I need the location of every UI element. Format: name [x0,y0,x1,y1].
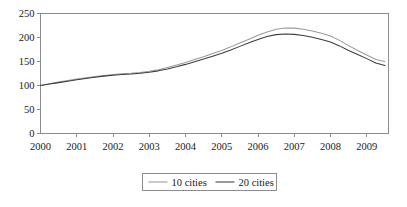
plot-frame [41,14,389,134]
y-tick-label: 150 [19,56,35,67]
chart-container: 050100150200250 200020012002200320042005… [0,0,407,207]
y-axis-labels: 050100150200250 [19,8,35,139]
x-tick-label: 2007 [284,141,305,152]
series-line-20-cities [41,34,385,86]
y-tick-label: 100 [19,80,35,91]
legend-label-10-cities: 10 cities [172,177,207,188]
x-axis-ticks [77,134,367,138]
x-tick-label: 2000 [30,141,51,152]
x-axis-labels: 2000200120022003200420052006200720082009 [30,141,377,152]
x-tick-label: 2001 [66,141,87,152]
x-tick-label: 2008 [320,141,341,152]
y-axis-ticks [37,14,41,134]
x-tick-label: 2006 [248,141,269,152]
line-chart: 050100150200250 200020012002200320042005… [0,0,407,207]
y-tick-label: 200 [19,32,35,43]
data-series-group [41,28,385,86]
y-tick-label: 50 [24,104,35,115]
chart-legend: 10 cities20 cities [143,174,277,191]
x-tick-label: 2009 [356,141,377,152]
x-tick-label: 2004 [175,141,197,152]
x-tick-label: 2002 [103,141,124,152]
plot-border [41,14,389,134]
x-tick-label: 2005 [211,141,232,152]
legend-label-20-cities: 20 cities [239,177,274,188]
y-tick-label: 0 [29,128,34,139]
y-tick-label: 250 [19,8,35,19]
x-tick-label: 2003 [139,141,160,152]
